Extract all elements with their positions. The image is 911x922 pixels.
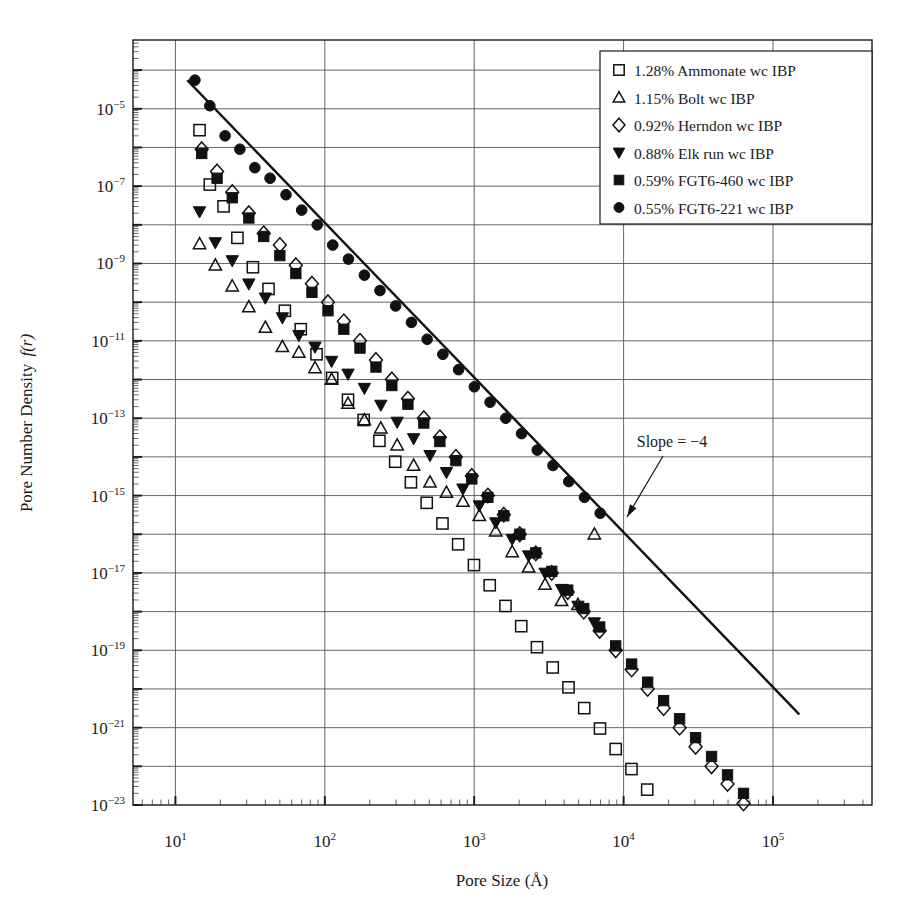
data-point-filled-circle — [296, 205, 307, 216]
data-point-filled-circle — [595, 508, 606, 519]
data-point-filled-square — [212, 173, 222, 183]
data-point-filled-square — [626, 659, 636, 669]
data-point-filled-square — [355, 343, 365, 353]
data-point-filled-square — [275, 250, 285, 260]
legend-marker-filled-square — [614, 175, 624, 185]
data-point-filled-square — [435, 436, 445, 446]
legend-item-3[interactable]: 0.88% Elk run wc IBP — [613, 145, 774, 162]
data-point-filled-square — [227, 193, 237, 203]
data-point-filled-circle — [343, 254, 354, 265]
data-point-filled-square — [611, 641, 621, 651]
data-point-filled-square — [307, 287, 317, 297]
legend-label: 0.88% Elk run wc IBP — [634, 145, 774, 162]
legend-label: 1.28% Ammonate wc IBP — [634, 62, 796, 79]
data-point-filled-square — [706, 751, 716, 761]
legend-item-1[interactable]: 1.15% Bolt wc IBP — [613, 90, 754, 107]
legend-label: 0.55% FGT6-221 wc IBP — [634, 200, 793, 217]
data-point-filled-square — [339, 324, 349, 334]
data-point-filled-circle — [265, 173, 276, 184]
data-point-filled-square — [387, 380, 397, 390]
data-point-filled-circle — [438, 349, 449, 360]
legend-item-5[interactable]: 0.55% FGT6-221 wc IBP — [614, 200, 793, 217]
legend[interactable]: 1.28% Ammonate wc IBP1.15% Bolt wc IBP0.… — [600, 51, 872, 224]
data-point-filled-circle — [532, 445, 543, 456]
svg-text:Pore Number Density f(r): Pore Number Density f(r) — [17, 334, 36, 513]
data-point-filled-square — [531, 548, 541, 558]
data-point-filled-circle — [250, 162, 261, 173]
data-point-filled-square — [403, 399, 413, 409]
data-point-filled-circle — [281, 189, 292, 200]
data-point-filled-square — [563, 585, 573, 595]
data-point-filled-square — [371, 362, 381, 372]
legend-item-2[interactable]: 0.92% Herndon wc IBP — [613, 117, 782, 134]
x-axis-title: Pore Size (Å) — [456, 871, 549, 890]
data-point-filled-square — [483, 492, 493, 502]
data-point-filled-square — [643, 677, 653, 687]
data-point-filled-square — [547, 566, 557, 576]
data-point-filled-square — [595, 622, 605, 632]
y-axis-title: Pore Number Density f(r) — [17, 334, 36, 513]
legend-label: 1.15% Bolt wc IBP — [634, 90, 755, 107]
data-point-filled-circle — [516, 428, 527, 439]
data-point-filled-circle — [500, 413, 511, 424]
scatter-plot-log-log: Slope = −4 101102103104105 10−510−710−91… — [0, 0, 911, 922]
data-point-filled-circle — [375, 285, 386, 296]
legend-label: 0.59% FGT6-460 wc IBP — [634, 172, 793, 189]
data-point-filled-circle — [422, 334, 433, 345]
data-point-filled-square — [499, 511, 509, 521]
data-point-filled-circle — [390, 301, 401, 312]
data-point-filled-circle — [579, 492, 590, 503]
data-point-filled-circle — [469, 381, 480, 392]
data-point-filled-square — [244, 213, 254, 223]
data-point-filled-circle — [563, 476, 574, 487]
data-point-filled-circle — [205, 100, 216, 111]
data-point-filled-square — [658, 695, 668, 705]
legend-label: 0.92% Herndon wc IBP — [634, 117, 782, 134]
legend-marker-filled-circle — [614, 203, 624, 213]
data-point-filled-circle — [190, 75, 201, 86]
data-point-filled-circle — [548, 460, 559, 471]
chart-figure: Slope = −4 101102103104105 10−510−710−91… — [0, 0, 911, 922]
data-point-filled-circle — [327, 240, 338, 251]
data-point-filled-square — [419, 418, 429, 428]
data-point-filled-square — [197, 148, 207, 158]
data-point-filled-circle — [406, 317, 417, 328]
data-point-filled-square — [674, 714, 684, 724]
data-point-filled-square — [515, 529, 525, 539]
data-point-filled-circle — [220, 130, 231, 141]
data-point-filled-circle — [235, 144, 246, 155]
legend-item-4[interactable]: 0.59% FGT6-460 wc IBP — [614, 172, 793, 189]
data-point-filled-circle — [485, 397, 496, 408]
data-point-filled-square — [690, 733, 700, 743]
data-point-filled-square — [467, 474, 477, 484]
legend-item-0[interactable]: 1.28% Ammonate wc IBP — [614, 62, 796, 79]
data-point-filled-square — [722, 770, 732, 780]
data-point-filled-square — [291, 268, 301, 278]
data-point-filled-square — [738, 788, 748, 798]
data-point-filled-square — [579, 603, 589, 613]
data-point-filled-circle — [312, 219, 323, 230]
data-point-filled-square — [451, 455, 461, 465]
slope-label: Slope = −4 — [637, 433, 708, 451]
data-point-filled-square — [323, 306, 333, 316]
data-point-filled-square — [259, 231, 269, 241]
data-point-filled-circle — [359, 270, 370, 281]
data-point-filled-circle — [453, 364, 464, 375]
